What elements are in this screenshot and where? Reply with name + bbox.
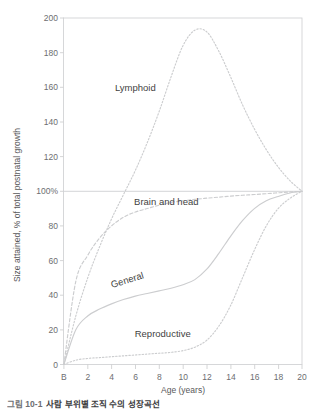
x-tick-label: 8 [157,372,162,382]
y-tick-label: 20 [49,325,59,335]
figure-caption: 그림 10-1사람 부위별 조직 수의 성장곡선 [7,399,312,409]
y-tick-label: 80 [49,221,59,231]
x-tick-label: 10 [178,372,188,382]
y-tick-label-100: 100% [36,186,58,196]
y-tick-label: 60 [49,256,59,266]
x-axis-tick-labels: B 2 4 6 8 10 12 14 16 18 20 [61,372,307,382]
x-tick-label: 16 [250,372,260,382]
x-tick-label: 4 [109,372,114,382]
x-tick-label: 2 [85,372,90,382]
caption-text: 사람 부위별 조직 수의 성장곡선 [46,399,159,409]
x-tick-label: 14 [226,372,236,382]
x-tick-label: 20 [297,372,307,382]
y-axis-title: Size attained, % of total postnatal grow… [12,128,22,282]
y-tick-label: 0 [53,360,58,370]
x-tick-label: B [61,372,67,382]
y-tick-label: 180 [44,48,58,58]
y-tick-label: 120 [44,152,58,162]
x-tick-label: 12 [202,372,212,382]
x-tick-label: 6 [133,372,138,382]
curve-label-reproductive: Reproductive [135,328,191,339]
curve-label-lymphoid: Lymphoid [115,82,156,93]
curve-label-brain-and-head: Brain and head [134,196,198,207]
y-tick-label: 140 [44,117,58,127]
y-tick-label: 200 [44,13,58,23]
x-axis-title: Age (years) [161,385,205,395]
x-axis-tick-marks [64,365,302,370]
caption-number: 그림 10-1 [7,399,42,409]
x-tick-label: 18 [274,372,284,382]
y-tick-label: 160 [44,82,58,92]
curve-label-general: General [109,270,145,290]
y-axis-tick-labels: 0 20 40 60 80 100% 120 140 160 180 200 [36,13,58,370]
y-tick-label: 40 [49,290,59,300]
